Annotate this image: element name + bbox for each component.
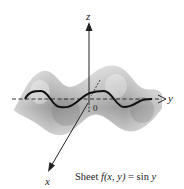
caption-variable: y <box>152 171 157 182</box>
x-axis-arrow-icon <box>48 162 55 172</box>
surface-diagram <box>0 0 184 189</box>
origin-label: 0 <box>93 104 98 113</box>
x-axis-label: x <box>45 176 50 187</box>
caption-args: (x, y) <box>104 171 126 182</box>
figure-caption: Sheet f(x, y) = sin y <box>75 172 156 183</box>
caption-prefix: Sheet <box>75 171 101 182</box>
sheet-sin-y-figure: z y x 0 Sheet f(x, y) = sin y <box>0 0 184 189</box>
y-axis-label: y <box>168 93 173 104</box>
caption-equals: = sin <box>125 171 151 182</box>
z-axis-arrow-icon <box>86 22 93 31</box>
z-axis-label: z <box>86 11 90 22</box>
